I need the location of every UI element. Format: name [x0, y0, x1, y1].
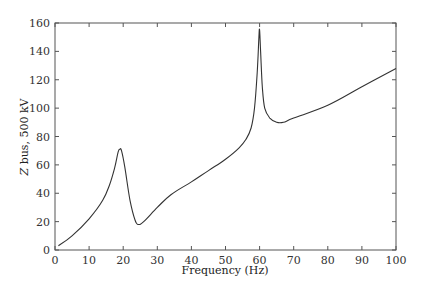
y-tick-labels: 020406080100120140160 [29, 17, 50, 257]
plot-frame [55, 23, 396, 250]
impedance-curve [58, 29, 396, 246]
y-tick-label: 40 [36, 187, 50, 200]
axis-ticks [55, 23, 396, 250]
y-tick-label: 140 [29, 45, 50, 58]
x-tick-label: 10 [82, 254, 96, 267]
x-tick-label: 90 [355, 254, 369, 267]
x-tick-label: 20 [116, 254, 130, 267]
y-tick-label: 80 [36, 131, 50, 144]
y-tick-label: 100 [29, 102, 50, 115]
x-tick-label: 70 [287, 254, 301, 267]
x-axis-label: Frequency (Hz) [182, 264, 269, 277]
x-tick-label: 0 [52, 254, 59, 267]
x-tick-label: 80 [321, 254, 335, 267]
y-tick-label: 60 [36, 159, 50, 172]
y-tick-label: 160 [29, 17, 50, 30]
y-tick-label: 20 [36, 216, 50, 229]
x-tick-label: 30 [150, 254, 164, 267]
y-axis-label: Z bus, 500 kV [18, 97, 31, 176]
y-tick-label: 0 [43, 244, 50, 257]
impedance-frequency-chart: 0102030405060708090100 02040608010012014… [0, 0, 421, 289]
y-tick-label: 120 [29, 74, 50, 87]
x-tick-label: 100 [386, 254, 407, 267]
